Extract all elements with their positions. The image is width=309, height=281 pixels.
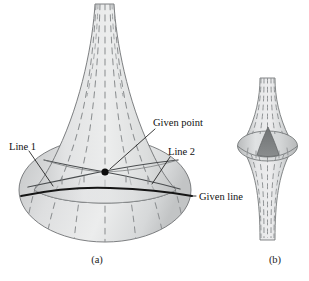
label-line-2: Line 2 xyxy=(168,146,195,157)
given-point-marker xyxy=(101,168,108,175)
panel-a: Line 1 Given point Line 2 Given line (a) xyxy=(9,4,243,266)
pseudosphere-figure: Line 1 Given point Line 2 Given line (a) xyxy=(0,0,309,281)
label-given-line: Given line xyxy=(199,191,243,202)
label-given-point: Given point xyxy=(153,117,203,128)
caption-a: (a) xyxy=(91,254,103,266)
label-line-1: Line 1 xyxy=(9,141,36,152)
caption-b: (b) xyxy=(269,254,282,266)
panel-b: (b) xyxy=(238,78,298,266)
figure-container: Line 1 Given point Line 2 Given line (a) xyxy=(0,0,309,281)
